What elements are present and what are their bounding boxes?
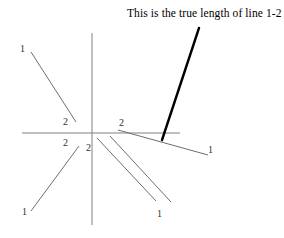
- reference-axes: [22, 33, 180, 225]
- upper-left-view-line: [31, 52, 76, 122]
- true-length-line: [162, 28, 199, 140]
- figure-canvas: [0, 0, 284, 238]
- projection-lines: [31, 52, 208, 211]
- lower-right-view-line-b: [110, 136, 171, 202]
- lower-right-view-line-a: [97, 138, 156, 201]
- caption-text: This is the true length of line 1-2: [127, 7, 282, 20]
- label-lower-left-point-1: 1: [22, 207, 27, 217]
- label-upper-left-point-2: 2: [63, 117, 68, 127]
- label-lower-right-point-2: 2: [86, 143, 91, 153]
- true-length-figure: This is the true length of line 1-2 1 2 …: [0, 0, 284, 238]
- label-right-view-point-1: 1: [208, 145, 213, 155]
- label-upper-left-point-1: 1: [20, 44, 25, 54]
- label-lower-left-point-2: 2: [63, 138, 68, 148]
- lower-left-view-line: [31, 146, 79, 211]
- label-lower-right-point-1: 1: [157, 209, 162, 219]
- label-right-view-point-2: 2: [119, 118, 124, 128]
